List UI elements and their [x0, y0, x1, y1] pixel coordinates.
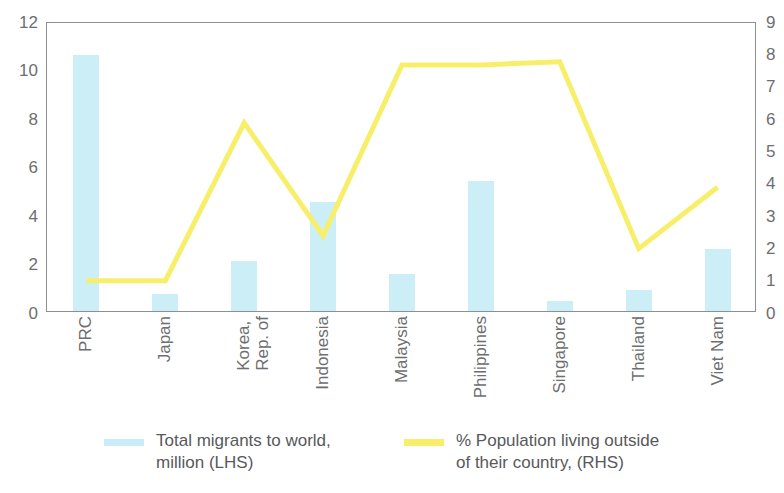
y-right-tick-5: 5 [766, 143, 784, 160]
legend-item-label: Total migrants to world, million (LHS) [156, 430, 331, 474]
plot-area [46, 22, 756, 312]
x-axis-label-malaysia: Malaysia [392, 316, 411, 383]
x-axis-label-korea-rep-of: Korea, Rep. of [234, 316, 272, 371]
y-right-tick-4: 4 [766, 175, 784, 192]
y-left-tick-8: 8 [4, 111, 38, 128]
plot-inner [47, 23, 755, 311]
legend-item-population-outside: % Population living outside of their cou… [404, 430, 659, 474]
legend-item-label: % Population living outside of their cou… [456, 430, 659, 474]
y-right-tick-8: 8 [766, 46, 784, 63]
y-right-tick-0: 0 [766, 305, 784, 322]
y-right-tick-2: 2 [766, 240, 784, 257]
y-left-tick-6: 6 [4, 159, 38, 176]
x-axis-label-philippines: Philippines [471, 316, 490, 398]
y-right-tick-3: 3 [766, 208, 784, 225]
line-series-path [86, 62, 717, 281]
chart-legend: Total migrants to world, million (LHS) %… [0, 430, 784, 490]
y-left-tick-2: 2 [4, 256, 38, 273]
y-right-tick-9: 9 [766, 14, 784, 31]
chart-container: 12 10 8 6 4 2 0 9 8 7 6 5 4 3 2 1 0 PRCJ… [0, 0, 784, 493]
x-axis-label-japan: Japan [155, 316, 174, 362]
y-left-tick-12: 12 [4, 14, 38, 31]
y-left-tick-10: 10 [4, 62, 38, 79]
y-left-tick-0: 0 [4, 305, 38, 322]
x-axis-label-singapore: Singapore [550, 316, 569, 394]
y-right-tick-1: 1 [766, 272, 784, 289]
y-left-tick-4: 4 [4, 208, 38, 225]
y-right-tick-7: 7 [766, 78, 784, 95]
x-axis-label-prc: PRC [76, 316, 95, 352]
line-series [47, 23, 757, 313]
x-axis-label-indonesia: Indonesia [313, 316, 332, 390]
x-axis-label-thailand: Thailand [629, 316, 648, 381]
x-axis-label-viet-nam: Viet Nam [708, 316, 727, 386]
y-right-tick-6: 6 [766, 111, 784, 128]
legend-item-total-migrants: Total migrants to world, million (LHS) [104, 430, 331, 474]
legend-line-swatch-icon [404, 439, 444, 446]
legend-bar-swatch-icon [104, 439, 144, 446]
